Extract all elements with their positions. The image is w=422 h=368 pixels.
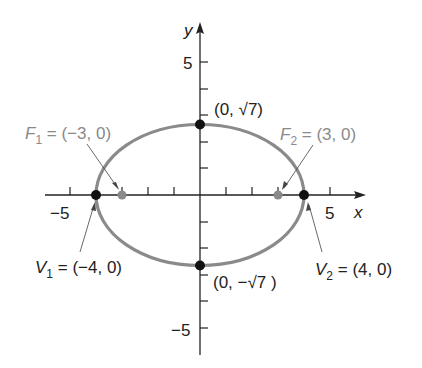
vertex-v1-dot [91, 190, 101, 200]
tick-label-y-5: 5 [183, 54, 192, 73]
top-point-label: (0, √7) [214, 100, 263, 119]
vertex-v1-label: V1 = (−4, 0) [35, 258, 122, 281]
y-axis-label: y [183, 21, 194, 40]
f1-pointer [87, 144, 117, 187]
tick-label-y-neg5: −5 [171, 321, 190, 340]
top-point-dot [195, 120, 205, 130]
bottom-point-label: (0, −√7 ) [213, 273, 277, 292]
f1-arrow-icon [112, 182, 119, 190]
tick-label-x-5: 5 [325, 204, 334, 223]
v2-arrow-icon [306, 202, 311, 211]
f2-pointer [284, 145, 313, 188]
ellipse-diagram: y x 5 −5 −5 5 (0, √7) (0, −√7 ) F1 = (−3… [0, 0, 422, 368]
bottom-point-dot [195, 261, 205, 271]
v1-pointer [80, 205, 94, 252]
vertex-v2-dot [299, 190, 309, 200]
focus-f1-label: F1 = (−3, 0) [25, 124, 111, 147]
vertex-v2-label: V2 = (4, 0) [315, 260, 392, 283]
focus-f1-dot [118, 191, 127, 200]
v2-pointer [309, 205, 322, 252]
f2-arrow-icon [282, 181, 288, 190]
tick-label-x-neg5: −5 [50, 204, 69, 223]
x-axis-label: x [353, 203, 363, 222]
focus-f2-dot [274, 191, 283, 200]
focus-f2-label: F2 = (3, 0) [280, 125, 356, 148]
